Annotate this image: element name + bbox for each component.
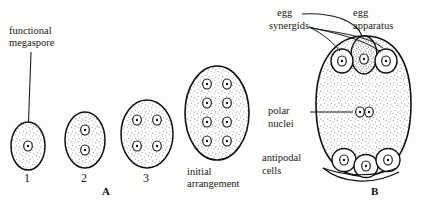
synergids-label: synergids xyxy=(269,20,309,32)
stage-3-megaspore xyxy=(121,100,173,168)
egg-apparatus-label-line1: egg xyxy=(353,7,368,19)
functional-megaspore-label-line2: megaspore xyxy=(9,37,54,48)
stage-1-number: 1 xyxy=(24,171,30,186)
functional-megaspore-label: functionalmegaspore xyxy=(9,25,54,48)
egg-label: egg xyxy=(277,7,292,19)
panel-a-letter: A xyxy=(102,185,110,197)
megaspore-leader-line xyxy=(29,52,32,122)
stage-2-megaspore xyxy=(65,112,105,168)
stage-4-initial-arrangement xyxy=(185,66,249,160)
antipodal-cells-label-line1: antipodal xyxy=(262,152,301,164)
synergid-cell-right xyxy=(375,49,397,73)
initial-arrangement-label-line2: arrangement xyxy=(187,178,239,189)
stage-1-megaspore xyxy=(11,122,45,170)
initial-arrangement-label-line1: initial xyxy=(187,166,212,177)
polar-nuclei-label-line1: polar xyxy=(268,105,290,117)
panel-a xyxy=(11,52,249,170)
panel-b xyxy=(302,14,411,181)
initial-arrangement-label: initialarrangement xyxy=(187,166,239,189)
stage-3-number: 3 xyxy=(143,171,149,186)
egg-apparatus-label-line2: apparatus xyxy=(353,20,393,32)
polar-nuclei-label-line2: nuclei xyxy=(268,118,294,130)
panel-b-letter: B xyxy=(371,185,378,197)
synergid-cell-left xyxy=(331,49,353,73)
antipodal-cells-label-line2: cells xyxy=(262,165,281,177)
stage-2-number: 2 xyxy=(81,171,87,186)
functional-megaspore-label-line1: functional xyxy=(9,25,52,36)
